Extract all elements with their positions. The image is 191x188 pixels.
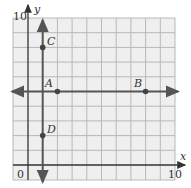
x-max-label: 10: [168, 168, 182, 181]
point-d-label: D: [46, 123, 56, 136]
point-c: [40, 45, 46, 51]
y-max-label: 10: [13, 10, 27, 23]
origin-label: 0: [17, 168, 24, 181]
point-b: [143, 89, 149, 95]
coordinate-plane: A B C D y x 10 10 0: [0, 0, 191, 188]
grid-background: [13, 18, 175, 180]
y-axis-label: y: [33, 3, 41, 16]
point-a-label: A: [44, 77, 53, 90]
point-c-label: C: [47, 35, 56, 48]
point-d: [40, 133, 46, 139]
point-b-label: B: [133, 77, 142, 90]
x-axis-label: x: [180, 150, 187, 163]
point-a: [55, 89, 61, 95]
